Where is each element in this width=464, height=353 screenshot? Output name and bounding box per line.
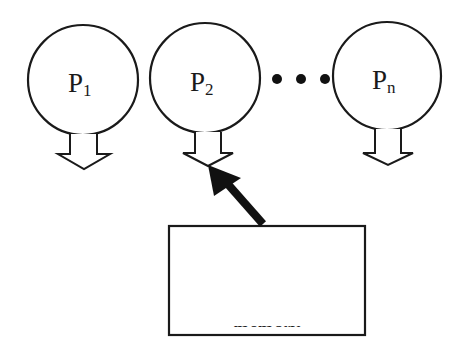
dot-icon xyxy=(320,74,330,84)
arrow-shaft xyxy=(226,182,263,224)
processor-p1: P1 xyxy=(28,25,138,169)
down-arrow-icon xyxy=(183,132,233,166)
down-arrow-icon xyxy=(58,134,110,169)
dot-icon xyxy=(296,74,306,84)
processor-p2: P2 xyxy=(150,23,260,166)
diagram-canvas: P1 P2 Pn memory xyxy=(0,0,464,353)
ellipsis-dots xyxy=(272,74,330,84)
memory-access-arrow xyxy=(208,165,263,224)
dot-icon xyxy=(272,74,282,84)
processor-pn: Pn xyxy=(333,22,441,165)
down-arrow-icon xyxy=(363,129,413,165)
memory-block: memory xyxy=(169,226,365,341)
